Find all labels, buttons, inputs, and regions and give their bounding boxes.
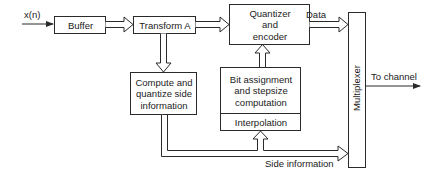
- side-to-interpolation-arrow: [253, 131, 268, 151]
- compute-label: Compute and quantize side information: [131, 73, 197, 115]
- quantizer-label: Quantizer and encoder: [230, 5, 310, 45]
- bit-assignment-label: Bit assignment and stepsize computation: [221, 68, 301, 114]
- to-channel-label: To channel: [371, 71, 417, 82]
- buffer-to-transform-arrow: [106, 17, 134, 32]
- multiplexer-label: Multiplexer: [351, 48, 363, 128]
- input-label: x(n): [24, 9, 40, 20]
- interpolation-label: Interpolation: [221, 114, 301, 131]
- transform-to-compute-arrow: [156, 34, 171, 73]
- side-information-label: Side information: [265, 158, 334, 169]
- transform-label: Transform A: [134, 17, 196, 34]
- bit-to-quantizer-arrow: [255, 45, 270, 68]
- transform-to-quantizer-arrow: [196, 17, 230, 32]
- data-label: Data: [306, 9, 326, 20]
- buffer-label: Buffer: [55, 17, 106, 34]
